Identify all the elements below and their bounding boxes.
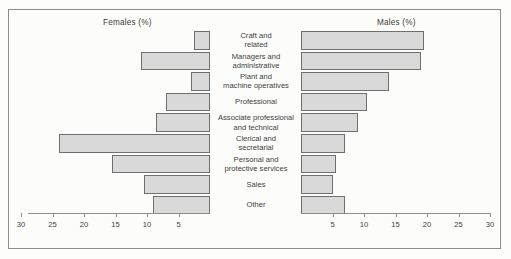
category-label: Professional	[211, 97, 301, 106]
male-bar	[301, 113, 358, 132]
male-10-tick-label: 10	[360, 220, 368, 229]
category-label: Plant andmachine operatives	[211, 72, 301, 90]
female-bar	[112, 155, 210, 174]
female-15-tick-label: 15	[111, 220, 119, 229]
male-25-tick-label: 25	[454, 220, 462, 229]
female-bar	[194, 31, 210, 50]
female-30-tick	[21, 213, 22, 217]
bar-row: Personal andprotective services	[0, 154, 511, 175]
male-bar	[301, 196, 345, 215]
male-bar	[301, 52, 421, 71]
female-bar	[59, 134, 210, 153]
females-panel-title: Females (%)	[103, 18, 152, 27]
male-bar	[301, 72, 389, 91]
female-20-tick	[84, 213, 85, 217]
category-label: Sales	[211, 180, 301, 189]
female-10-tick-label: 10	[143, 220, 151, 229]
male-30-tick-label: 30	[486, 220, 494, 229]
female-20-tick-label: 20	[80, 220, 88, 229]
category-label: Craft andrelated	[211, 31, 301, 49]
category-label: Personal andprotective services	[211, 155, 301, 173]
bar-row: Sales	[0, 174, 511, 195]
female-25-tick	[53, 213, 54, 217]
male-5-tick-label: 5	[330, 220, 334, 229]
male-bar	[301, 175, 333, 194]
male-20-tick	[427, 213, 428, 217]
female-15-tick	[116, 213, 117, 217]
male-30-tick	[490, 213, 491, 217]
female-bar	[156, 113, 210, 132]
male-bar	[301, 31, 424, 50]
bar-row: Clerical andsecretarial	[0, 133, 511, 154]
female-bar	[153, 196, 210, 215]
male-25-tick	[459, 213, 460, 217]
population-pyramid-figure: Females (%) Males (%) Craft andrelatedMa…	[0, 0, 511, 259]
male-bar	[301, 93, 367, 112]
female-bar	[166, 93, 210, 112]
female-bar	[191, 72, 210, 91]
male-10-tick	[364, 213, 365, 217]
male-bar	[301, 134, 345, 153]
bar-row: Plant andmachine operatives	[0, 71, 511, 92]
male-20-tick-label: 20	[423, 220, 431, 229]
males-panel-title: Males (%)	[377, 18, 416, 27]
female-5-tick	[179, 213, 180, 217]
bar-row: Managers andadministrative	[0, 51, 511, 72]
bar-rows: Craft andrelatedManagers andadministrati…	[0, 30, 511, 215]
bar-row: Professional	[0, 92, 511, 113]
female-25-tick-label: 25	[48, 220, 56, 229]
female-5-tick-label: 5	[176, 220, 180, 229]
male-15-tick-label: 15	[391, 220, 399, 229]
category-label: Clerical andsecretarial	[211, 134, 301, 152]
bar-row: Craft andrelated	[0, 30, 511, 51]
bar-row: Associate professionaland technical	[0, 112, 511, 133]
category-label: Managers andadministrative	[211, 52, 301, 70]
female-10-tick	[147, 213, 148, 217]
category-label: Associate professionaland technical	[211, 113, 301, 131]
category-label: Other	[211, 200, 301, 209]
female-bar	[144, 175, 210, 194]
female-axis-line	[28, 213, 210, 214]
female-30-tick-label: 30	[17, 220, 25, 229]
female-bar	[141, 52, 210, 71]
male-bar	[301, 155, 336, 174]
male-5-tick	[333, 213, 334, 217]
male-15-tick	[396, 213, 397, 217]
